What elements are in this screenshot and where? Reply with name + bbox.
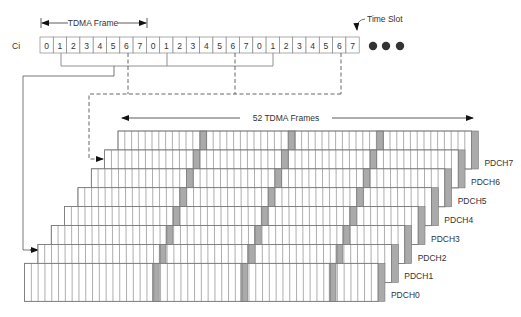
timeslot-number: 7	[350, 41, 355, 51]
pdch-label: PDCH3	[431, 234, 460, 244]
idle-frame-bar	[378, 263, 385, 301]
timeslot-number: 7	[137, 41, 142, 51]
timeslot-cell: 5	[107, 37, 120, 53]
pdch-label: PDCH4	[444, 215, 473, 225]
timeslot-number: 6	[124, 41, 129, 51]
timeslot-number: 4	[97, 41, 102, 51]
timeslot-number: 3	[297, 41, 302, 51]
timeslot-number: 6	[230, 41, 235, 51]
timeslot-cell: 3	[186, 37, 199, 53]
tdma-frame-label: TDMA Frame	[68, 18, 119, 28]
pdch-label: PDCH5	[458, 196, 487, 206]
timeslot-strip: 012345670123456701234567	[40, 37, 359, 53]
timeslot-cell: 7	[133, 37, 146, 53]
timeslot-cell: 1	[266, 37, 279, 53]
highlight-frame	[329, 263, 336, 301]
pdch-label: PDCH2	[418, 253, 447, 263]
timeslot-number: 0	[44, 41, 49, 51]
timeslot-cell: 1	[53, 37, 66, 53]
idle-frame-bar	[445, 169, 452, 207]
pdch-label: PDCH0	[391, 290, 420, 300]
timeslot-number: 5	[324, 41, 329, 51]
timeslot-number: 3	[191, 41, 196, 51]
time-slot-label: Time Slot	[367, 14, 403, 24]
timeslot-cell: 5	[319, 37, 332, 53]
timeslot-cell: 2	[173, 37, 186, 53]
timeslot-number: 3	[84, 41, 89, 51]
timeslot-cell: 2	[279, 37, 292, 53]
timeslot-number: 1	[58, 41, 63, 51]
timeslot-cell: 0	[40, 37, 53, 53]
timeslot-cell: 0	[253, 37, 266, 53]
timeslot-number: 0	[257, 41, 262, 51]
idle-frame-bar	[472, 131, 479, 169]
ci-label: Ci	[12, 41, 20, 51]
timeslot-number: 2	[284, 41, 289, 51]
timeslot-cell: 7	[240, 37, 253, 53]
timeslot-cell: 7	[346, 37, 359, 53]
timeslot-cell: 6	[333, 37, 346, 53]
pdch-label: PDCH6	[471, 177, 500, 187]
pdch-diagram: TDMA Frame Time Slot Ci 0123456701234567…	[0, 0, 521, 317]
timeslot-cell: 5	[213, 37, 226, 53]
timeslot-number: 1	[164, 41, 169, 51]
multiframe-dimension: 52 TDMA Frames	[122, 113, 473, 123]
idle-frame-bar	[432, 188, 439, 226]
timeslot-cell: 1	[160, 37, 173, 53]
timeslot-cell: 6	[120, 37, 133, 53]
timeslot-number: 0	[151, 41, 156, 51]
timeslot-number: 1	[270, 41, 275, 51]
idle-frame-bar	[458, 150, 465, 188]
timeslot-number: 7	[244, 41, 249, 51]
timeslot-cell: 3	[80, 37, 93, 53]
time-slot-callout: Time Slot	[357, 14, 403, 30]
timeslot-number: 2	[177, 41, 182, 51]
timeslot-number: 4	[310, 41, 315, 51]
pdch-rows: PDCH7PDCH6PDCH5PDCH4PDCH3PDCH2PDCH1PDCH0	[25, 131, 514, 301]
timeslot-number: 6	[337, 41, 342, 51]
timeslot-cell: 2	[67, 37, 80, 53]
timeslot-number: 5	[111, 41, 116, 51]
continuation-dots-icon	[369, 42, 404, 50]
idle-frame-bar	[392, 244, 399, 282]
tdma-frame-dimension: TDMA Frame	[41, 18, 147, 28]
timeslot-cell: 3	[293, 37, 306, 53]
highlight-frame	[152, 263, 159, 301]
timeslot-number: 2	[71, 41, 76, 51]
pdch-row-0: PDCH0	[25, 263, 420, 301]
timeslot-cell: 0	[146, 37, 159, 53]
timeslot-cell: 4	[200, 37, 213, 53]
idle-frame-bar	[418, 207, 425, 245]
timeslot-number: 4	[204, 41, 209, 51]
timeslot-cell: 6	[226, 37, 239, 53]
pdch-label: PDCH1	[404, 271, 433, 281]
timeslot-cell: 4	[93, 37, 106, 53]
idle-frame-bar	[405, 226, 412, 264]
multiframe-label: 52 TDMA Frames	[253, 113, 319, 123]
highlight-frame	[241, 263, 248, 301]
pdch-label: PDCH7	[484, 158, 513, 168]
timeslot-cell: 4	[306, 37, 319, 53]
timeslot-number: 5	[217, 41, 222, 51]
